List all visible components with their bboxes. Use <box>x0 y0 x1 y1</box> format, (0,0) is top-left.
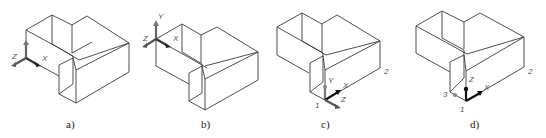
panel-c-axis-label-z: Z <box>340 95 347 104</box>
panel-d-axis-label-x: X <box>483 83 490 92</box>
panel-d-point-label-3: 3 <box>443 90 448 99</box>
panel-b-wireframe <box>156 24 258 110</box>
panel-b-axis-label-z: Z <box>142 34 149 43</box>
panel-c-wireframe <box>277 13 380 100</box>
panel-b-caption: b) <box>201 118 210 130</box>
panel-a-axis-label-z: Z <box>11 52 18 61</box>
panel-d-axis-label-z: Z <box>468 75 475 84</box>
panel-c-axis-label-x: X <box>342 81 349 90</box>
panel-c-caption: c) <box>321 118 330 130</box>
panel-a-caption: a) <box>66 118 75 130</box>
diagram-canvas: Z X <box>0 0 546 138</box>
panel-b-axis-label-y: Y <box>158 12 164 21</box>
panel-c-axis-triad: Y X Z 1 2 <box>315 67 389 110</box>
panel-b-axis-triad: Y Z X <box>142 12 179 48</box>
panel-c-point-label-2: 2 <box>383 67 389 76</box>
panel-d-wireframe <box>416 11 524 101</box>
panel-d-caption: d) <box>470 118 479 130</box>
panel-c-axis-label-y: Y <box>328 76 334 85</box>
panel-d-point-label-2: 2 <box>527 67 533 76</box>
panel-c-point-label-1: 1 <box>315 101 319 110</box>
panel-a-axis-triad: Z X <box>11 40 48 67</box>
panel-b-axis-label-x: X <box>172 34 179 43</box>
panel-d-axis-triad: Z X 1 2 3 <box>443 67 533 114</box>
panel-a-axis-label-x: X <box>41 54 48 63</box>
panel-d-point-label-1: 1 <box>460 105 464 114</box>
